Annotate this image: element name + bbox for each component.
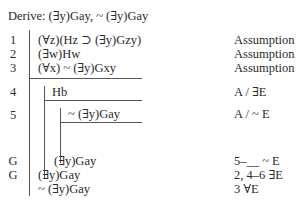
justification: Assumption — [234, 62, 294, 75]
derive-title: Derive: (∃y)Gay, ~ (∃y)Gay — [8, 10, 148, 23]
sub2-assumption-bar — [60, 122, 142, 123]
line-number: 4 — [6, 86, 20, 99]
formula: (∃y)Gay — [38, 169, 80, 182]
line-number: G — [6, 169, 20, 182]
formula: ~ (∃y)Gay — [68, 108, 120, 121]
formula: ~ (∃y)Gay — [38, 183, 90, 196]
justification: Assumption — [234, 48, 294, 61]
formula: Hb — [52, 86, 67, 99]
line-number: 5 — [6, 109, 20, 122]
line-number: 1 — [6, 34, 20, 47]
formula: (∀z)(Hz ⊃ (∃y)Gzy) — [38, 34, 141, 47]
formula: (∀x) ~ (∃y)Gxy — [38, 62, 116, 75]
justification: 5–__ ~ E — [234, 155, 280, 168]
formula: (∃w)Hw — [38, 48, 80, 61]
justification: 2, 4–6 ∃E — [234, 169, 283, 182]
justification: 3 ∀E — [234, 183, 259, 196]
justification: A / ~ E — [234, 108, 270, 121]
line-number: 3 — [6, 62, 20, 75]
line-number: 2 — [6, 48, 20, 61]
justification: Assumption — [234, 34, 294, 47]
line-number: G — [6, 155, 20, 168]
formula: (∃y)Gay — [54, 155, 96, 168]
main-scope-line — [29, 30, 30, 196]
main-assumption-bar — [29, 78, 142, 79]
justification: A / ∃E — [234, 86, 266, 99]
sub1-assumption-bar — [44, 100, 142, 101]
